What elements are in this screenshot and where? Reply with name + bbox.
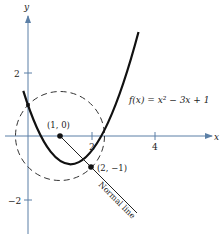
y-tick-label-neg2: −2 bbox=[8, 196, 21, 206]
function-label: f(x) = x² − 3x + 1 bbox=[128, 95, 209, 105]
normal-line-label: Normal line bbox=[97, 180, 138, 221]
y-axis-label: y bbox=[23, 2, 30, 12]
center-point bbox=[57, 133, 63, 139]
x-tick-label-4: 4 bbox=[152, 142, 158, 152]
x-tick-label-2: 2 bbox=[89, 142, 95, 152]
tangent-point-label: (2, −1) bbox=[97, 163, 127, 173]
center-point-label: (1, 0) bbox=[47, 120, 70, 130]
diagram: y x 2 4 2 −2 (1, 0) (2, −1) f(x) = x² − … bbox=[0, 0, 221, 239]
y-intercept-point bbox=[26, 103, 30, 107]
parabola-curve bbox=[23, 32, 138, 164]
x-axis-label: x bbox=[214, 132, 219, 142]
tangent-point bbox=[88, 164, 94, 170]
y-tick-label-2: 2 bbox=[14, 69, 20, 79]
